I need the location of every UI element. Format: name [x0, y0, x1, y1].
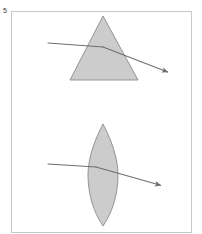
optics-diagram-canvas [0, 0, 202, 234]
figure-container: 5 [0, 0, 202, 234]
lens-panel [48, 124, 161, 226]
prism-panel [48, 16, 168, 80]
biconvex-lens-shape [88, 124, 118, 226]
triangular-prism-shape [70, 16, 138, 80]
